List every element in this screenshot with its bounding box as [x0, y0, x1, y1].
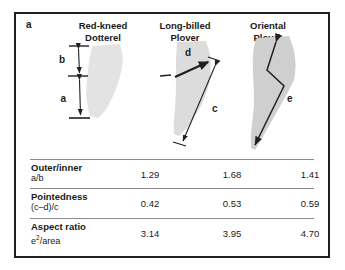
table-cell-value: 0.59	[280, 198, 340, 209]
measurement-label-a: a	[60, 93, 66, 104]
measurement-label-b: b	[59, 54, 65, 65]
measurement-label-c: c	[212, 103, 218, 114]
table-cell-value: 1.29	[120, 169, 180, 180]
row-label-aspect-ratio: Aspect ratio e2/area	[31, 221, 126, 247]
measurement-label-e: e	[287, 93, 293, 104]
row-metric-formula: e2/area	[31, 232, 126, 247]
row-metric-formula: a/b	[31, 173, 126, 184]
table-row: Pointedness (c–d)/c 0.42 0.53 0.59	[16, 188, 328, 218]
row-metric-name: Pointedness	[31, 191, 126, 202]
table-row: Outer/inner a/b 1.29 1.68 1.41	[16, 159, 328, 189]
table-cell-value: 3.14	[120, 228, 180, 239]
table-row: Aspect ratio e2/area 3.14 3.95 4.70	[16, 218, 328, 248]
measurement-b-annotation: b	[59, 46, 89, 76]
formula-suffix: /area	[40, 236, 61, 246]
wing-diagram-area: b a d c	[16, 14, 328, 164]
table-cell-value: 3.95	[202, 228, 262, 239]
table-cell-value: 1.41	[280, 169, 340, 180]
figure-panel: a Red-kneed Dotterel Long-billed Plover …	[14, 12, 330, 258]
row-metric-formula: (c–d)/c	[31, 202, 126, 213]
table-cell-value: 0.42	[120, 198, 180, 209]
table-cell-value: 1.68	[202, 169, 262, 180]
table-cell-value: 0.53	[202, 198, 262, 209]
row-label-outer-inner: Outer/inner a/b	[31, 162, 126, 184]
measurement-label-d: d	[185, 47, 191, 58]
row-metric-name: Aspect ratio	[31, 221, 126, 232]
row-metric-name: Outer/inner	[31, 162, 126, 173]
table-cell-value: 4.70	[280, 228, 340, 239]
metrics-table: Outer/inner a/b 1.29 1.68 1.41 Pointedne…	[16, 157, 328, 256]
measurement-a-annotation: a	[60, 80, 90, 118]
row-label-pointedness: Pointedness (c–d)/c	[31, 191, 126, 213]
wing-shape-red-kneed-dotterel	[86, 44, 123, 118]
